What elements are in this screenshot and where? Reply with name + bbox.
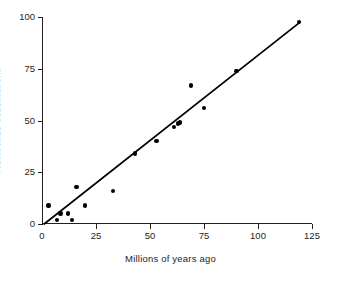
data-point [133, 151, 137, 155]
x-tick-label-50: 50 [145, 231, 156, 241]
x-tick-label-75: 75 [199, 231, 210, 241]
data-point [74, 185, 78, 189]
x-tick-label-0: 0 [39, 231, 44, 241]
x-tick-50 [150, 224, 151, 229]
x-tick-100 [258, 224, 259, 229]
y-axis-label: Nucleotide substitutions [0, 67, 2, 172]
x-axis-label: Millions of years ago [0, 253, 341, 264]
plot-area: 0255075100 0255075100125 [42, 17, 312, 224]
y-tick-label-100: 100 [19, 12, 35, 22]
x-tick-75 [204, 224, 205, 229]
x-tick-label-25: 25 [91, 231, 102, 241]
y-tick-label-25: 25 [24, 168, 35, 178]
y-tick-label-0: 0 [30, 219, 35, 229]
data-point [172, 125, 176, 129]
data-point [234, 69, 238, 73]
data-point [46, 203, 50, 207]
data-point [154, 139, 158, 143]
y-tick-0 [38, 224, 43, 225]
x-tick-label-125: 125 [304, 231, 320, 241]
x-tick-25 [96, 224, 97, 229]
x-tick-125 [312, 224, 313, 229]
scatter-chart-figure: 0255075100 0255075100125 Millions of yea… [0, 0, 341, 288]
y-tick-label-75: 75 [24, 64, 35, 74]
data-point [58, 211, 62, 215]
data-point [189, 83, 193, 87]
data-point [83, 203, 87, 207]
data-point [66, 211, 70, 215]
x-tick-label-100: 100 [250, 231, 266, 241]
y-tick-label-50: 50 [24, 116, 35, 126]
